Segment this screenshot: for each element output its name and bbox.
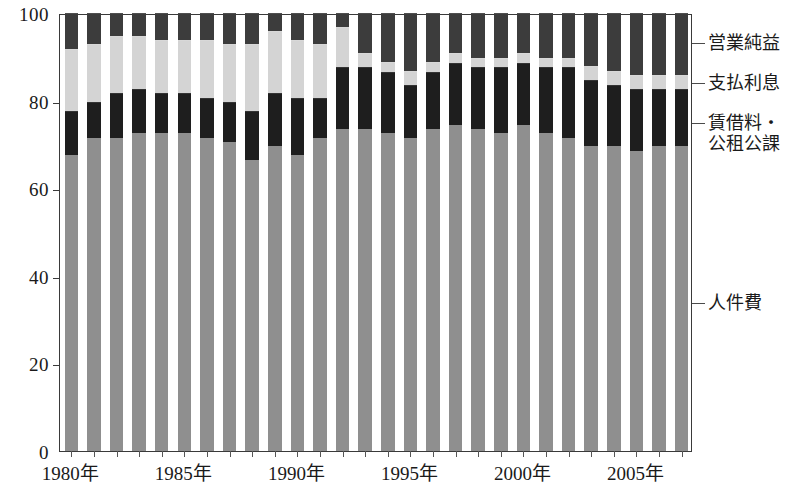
- legend-leader-line: [692, 303, 705, 304]
- bar-segment-shiharairisoku: [517, 53, 531, 63]
- bar-segment-eigyojunrieki: [562, 13, 576, 58]
- x-tick-mark: [569, 451, 570, 457]
- bar-segment-shiharairisoku: [245, 44, 259, 110]
- x-tick-mark: [478, 451, 479, 457]
- bar-segment-eigyojunrieki: [471, 13, 485, 58]
- bar-segment-chinshakuryo: [223, 102, 237, 142]
- bar-segment-eigyojunrieki: [336, 13, 350, 27]
- bar-segment-shiharairisoku: [65, 49, 79, 111]
- x-tick-mark: [320, 451, 321, 457]
- bar-segment-eigyojunrieki: [404, 13, 418, 71]
- bar-segment-chinshakuryo: [268, 93, 282, 146]
- x-tick-mark: [388, 451, 389, 457]
- bar-segment-shiharairisoku: [630, 75, 644, 89]
- bar-segment-jinkenhi: [155, 133, 169, 451]
- bar-segment-shiharairisoku: [358, 53, 372, 67]
- y-tick-mark: [53, 278, 60, 279]
- bar-segment-chinshakuryo: [358, 67, 372, 129]
- x-tick-mark: [682, 451, 683, 457]
- bar-segment-shiharairisoku: [675, 75, 689, 89]
- bar-1982: [110, 13, 124, 451]
- bar-1984: [155, 13, 169, 451]
- bar-segment-chinshakuryo: [426, 72, 440, 130]
- bar-1985: [178, 13, 192, 451]
- bar-segment-chinshakuryo: [132, 89, 146, 134]
- bar-segment-shiharairisoku: [336, 27, 350, 67]
- bar-segment-jinkenhi: [381, 133, 395, 451]
- bar-segment-shiharairisoku: [155, 40, 169, 93]
- bar-segment-eigyojunrieki: [223, 13, 237, 44]
- bar-segment-eigyojunrieki: [87, 13, 101, 44]
- bar-segment-shiharairisoku: [494, 58, 508, 68]
- x-tick-mark: [456, 451, 457, 457]
- bar-segment-eigyojunrieki: [426, 13, 440, 62]
- bar-segment-eigyojunrieki: [675, 13, 689, 75]
- bar-1992: [336, 13, 350, 451]
- bar-segment-shiharairisoku: [404, 71, 418, 85]
- x-tick-mark: [117, 451, 118, 457]
- bar-segment-jinkenhi: [313, 138, 327, 451]
- bar-segment-shiharairisoku: [381, 62, 395, 72]
- x-tick-mark: [343, 451, 344, 457]
- legend-item-jinkenhi: 人件費: [692, 293, 762, 314]
- bar-segment-jinkenhi: [539, 133, 553, 451]
- bar-segment-jinkenhi: [87, 138, 101, 451]
- legend-item-eigyojunrieki: 営業純益: [692, 33, 780, 54]
- bar-1981: [87, 13, 101, 451]
- legend-label: 賃借料・ 公租公課: [708, 113, 780, 154]
- bar-segment-chinshakuryo: [675, 89, 689, 147]
- bar-segment-shiharairisoku: [652, 75, 666, 89]
- bar-1989: [268, 13, 282, 451]
- y-tick-label: 100: [19, 5, 49, 24]
- bar-2005: [630, 13, 644, 451]
- bar-segment-eigyojunrieki: [178, 13, 192, 40]
- plot-area: [59, 14, 692, 452]
- bar-segment-jinkenhi: [65, 155, 79, 451]
- x-tick-mark: [365, 451, 366, 457]
- bar-segment-chinshakuryo: [291, 98, 305, 156]
- x-tick-mark: [297, 451, 298, 457]
- bar-segment-chinshakuryo: [584, 80, 598, 146]
- bar-segment-jinkenhi: [358, 129, 372, 451]
- x-tick-mark: [184, 451, 185, 457]
- chart-legend: 営業純益 支払利息 賃借料・ 公租公課 人件費: [692, 0, 786, 496]
- bar-segment-chinshakuryo: [652, 89, 666, 147]
- bar-2001: [539, 13, 553, 451]
- bar-segment-chinshakuryo: [313, 98, 327, 138]
- legend-label: 営業純益: [708, 33, 780, 54]
- bar-segment-jinkenhi: [268, 146, 282, 451]
- bar-segment-eigyojunrieki: [584, 13, 598, 66]
- bar-segment-jinkenhi: [426, 129, 440, 451]
- bar-segment-shiharairisoku: [607, 71, 621, 85]
- legend-item-chinshakuryo: 賃借料・ 公租公課: [692, 113, 780, 154]
- bar-segment-eigyojunrieki: [245, 13, 259, 44]
- bar-segment-eigyojunrieki: [155, 13, 169, 40]
- x-tick-label: 1990年: [268, 464, 325, 483]
- x-tick-mark: [230, 451, 231, 457]
- bar-2004: [607, 13, 621, 451]
- bar-segment-chinshakuryo: [630, 89, 644, 151]
- x-tick-mark: [252, 451, 253, 457]
- bar-1983: [132, 13, 146, 451]
- bar-1988: [245, 13, 259, 451]
- bar-segment-jinkenhi: [132, 133, 146, 451]
- y-axis: 100 80 60 40 20 0: [0, 0, 59, 496]
- bar-segment-jinkenhi: [652, 146, 666, 451]
- bar-segment-eigyojunrieki: [200, 13, 214, 40]
- bar-segment-chinshakuryo: [155, 93, 169, 133]
- bar-segment-eigyojunrieki: [449, 13, 463, 53]
- x-tick-mark: [501, 451, 502, 457]
- bar-segment-eigyojunrieki: [65, 13, 79, 49]
- bar-1991: [313, 13, 327, 451]
- y-tick-label: 80: [29, 92, 49, 111]
- x-tick-label: 1980年: [42, 464, 99, 483]
- legend-leader-line: [692, 123, 705, 124]
- x-tick-mark: [162, 451, 163, 457]
- legend-leader-line: [692, 43, 705, 44]
- bars-layer: [60, 15, 691, 451]
- bar-segment-jinkenhi: [245, 160, 259, 451]
- bar-segment-eigyojunrieki: [539, 13, 553, 58]
- bar-1980: [65, 13, 79, 451]
- bar-1986: [200, 13, 214, 451]
- bar-segment-jinkenhi: [562, 138, 576, 451]
